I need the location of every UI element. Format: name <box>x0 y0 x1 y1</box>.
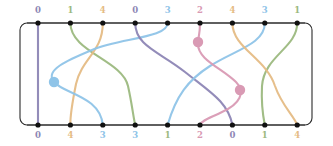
strand-blue-1 <box>52 23 168 125</box>
top-label-1: 1 <box>62 5 78 15</box>
node-bottom-3 <box>133 122 138 127</box>
top-label-8: 1 <box>289 5 305 15</box>
marker-pink-lower <box>235 85 245 95</box>
node-top-3 <box>133 20 138 25</box>
strand-green-2 <box>262 23 297 125</box>
node-bottom-4 <box>165 122 170 127</box>
node-bottom-6 <box>230 122 235 127</box>
node-top-2 <box>100 20 105 25</box>
node-top-8 <box>295 20 300 25</box>
marker-blue <box>49 77 59 87</box>
bottom-label-2: 3 <box>95 130 111 140</box>
strand-blue-2 <box>168 23 265 125</box>
bottom-label-7: 1 <box>257 130 273 140</box>
node-bottom-1 <box>68 122 73 127</box>
node-top-6 <box>230 20 235 25</box>
strand-purple-2 <box>135 23 232 125</box>
braid-canvas <box>0 0 333 146</box>
bottom-label-3: 3 <box>127 130 143 140</box>
strand-group <box>38 23 297 125</box>
top-label-0: 0 <box>30 5 46 15</box>
node-top-1 <box>68 20 73 25</box>
node-bottom-8 <box>295 122 300 127</box>
top-label-7: 3 <box>257 5 273 15</box>
node-top-5 <box>197 20 202 25</box>
braid-diagram-figure: 014032431 043312014 <box>0 0 333 146</box>
top-label-2: 4 <box>95 5 111 15</box>
top-label-6: 4 <box>224 5 240 15</box>
bottom-label-6: 0 <box>224 130 240 140</box>
bottom-label-0: 0 <box>30 130 46 140</box>
node-bottom-2 <box>100 122 105 127</box>
node-bottom-5 <box>197 122 202 127</box>
node-top-7 <box>262 20 267 25</box>
top-label-5: 2 <box>192 5 208 15</box>
bottom-label-1: 4 <box>62 130 78 140</box>
marker-pink-upper <box>193 37 203 47</box>
top-label-3: 0 <box>127 5 143 15</box>
top-label-4: 3 <box>160 5 176 15</box>
bottom-label-8: 4 <box>289 130 305 140</box>
bottom-label-4: 1 <box>160 130 176 140</box>
node-bottom-7 <box>262 122 267 127</box>
node-top-4 <box>165 20 170 25</box>
bottom-label-5: 2 <box>192 130 208 140</box>
node-bottom-0 <box>35 122 40 127</box>
strand-pink-1 <box>198 23 241 125</box>
node-top-0 <box>35 20 40 25</box>
